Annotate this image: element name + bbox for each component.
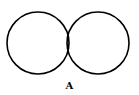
left-circle bbox=[7, 12, 69, 74]
diagram-caption: A bbox=[0, 80, 139, 91]
right-circle bbox=[67, 12, 129, 74]
